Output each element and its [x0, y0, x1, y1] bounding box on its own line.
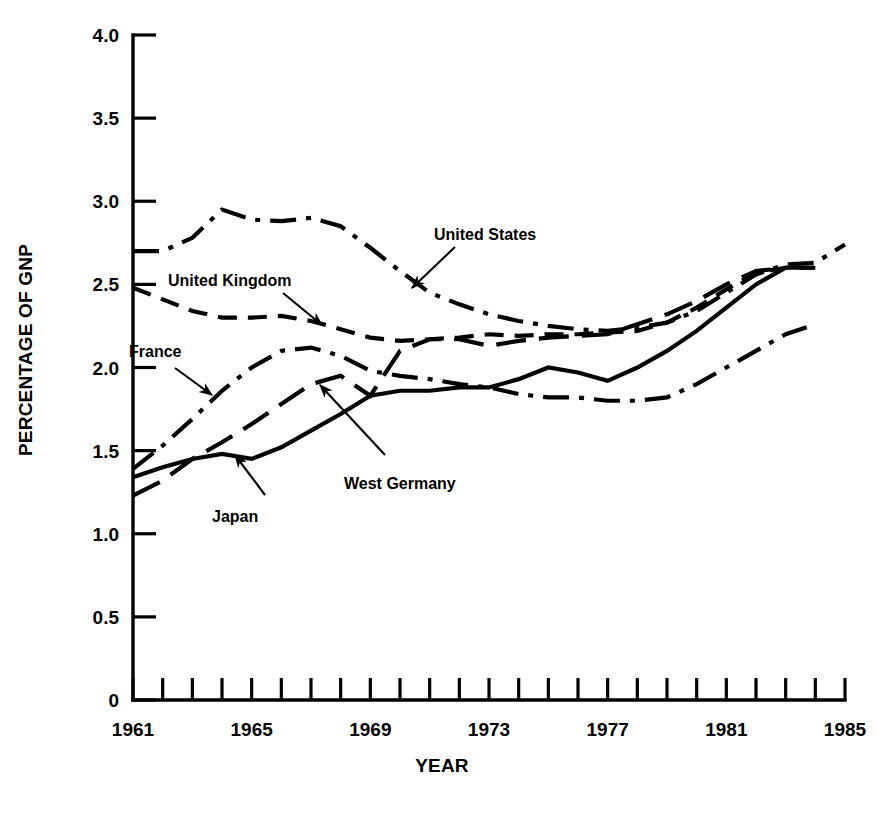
y-axis-title: PERCENTAGE OF GNP [15, 244, 37, 456]
series-label-united-kingdom: United Kingdom [168, 272, 292, 289]
x-axis-ticks [133, 678, 845, 700]
x-tick-label: 1965 [231, 719, 274, 740]
y-axis-ticks [133, 35, 156, 700]
x-axis-title: YEAR [415, 755, 469, 776]
y-tick-label: 3.5 [93, 108, 120, 129]
x-tick-label: 1969 [349, 719, 391, 740]
leader-united-states [412, 247, 455, 288]
y-tick-label: 2.0 [93, 358, 119, 379]
series-label-west-germany: West Germany [344, 475, 456, 492]
x-axis-tick-labels: 1961196519691973197719811985 [112, 719, 867, 740]
y-axis-title-wrapper: PERCENTAGE OF GNP [6, 0, 46, 700]
x-tick-label: 1973 [468, 719, 510, 740]
leader-united-kingdom [283, 293, 322, 325]
leader-france [175, 368, 212, 395]
x-tick-label: 1977 [587, 719, 629, 740]
series-line-france [133, 324, 815, 469]
series-label-france: France [129, 343, 182, 360]
y-tick-label: 4.0 [93, 25, 119, 46]
axis-lines [133, 35, 845, 700]
data-series-group [133, 210, 845, 496]
line-chart-plot: 00.51.01.52.02.53.03.54.0 19611965196919… [0, 0, 884, 820]
chart-figure: 00.51.01.52.02.53.03.54.0 19611965196919… [0, 0, 884, 820]
x-tick-label: 1961 [112, 719, 155, 740]
series-label-japan: Japan [212, 508, 258, 525]
x-tick-label: 1981 [705, 719, 748, 740]
series-line-west-germany [133, 268, 786, 477]
x-axis-title-wrapper: YEAR [0, 755, 884, 777]
leader-japan [235, 455, 265, 495]
y-tick-label: 0 [108, 690, 119, 711]
y-axis-tick-labels: 00.51.01.52.02.53.03.54.0 [93, 25, 120, 711]
y-tick-label: 3.0 [93, 191, 119, 212]
y-tick-label: 1.5 [93, 441, 120, 462]
y-tick-label: 1.0 [93, 524, 119, 545]
y-tick-label: 2.5 [93, 274, 120, 295]
y-tick-label: 0.5 [93, 607, 120, 628]
series-label-united-states: United States [434, 226, 536, 243]
x-tick-label: 1985 [824, 719, 867, 740]
